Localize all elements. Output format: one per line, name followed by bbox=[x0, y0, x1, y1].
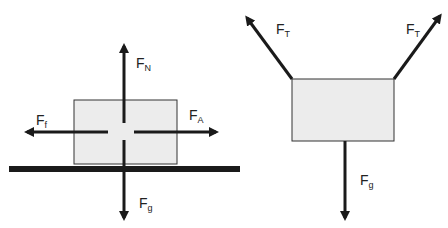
gravity-force-label: Fg bbox=[139, 196, 153, 213]
block-on-surface-diagram bbox=[9, 46, 240, 218]
normal-force-label: FN bbox=[136, 56, 151, 73]
hanging-block bbox=[292, 79, 394, 141]
tension-left-label: FT bbox=[276, 22, 290, 39]
free-body-diagrams bbox=[0, 0, 448, 228]
applied-force-label: FA bbox=[189, 108, 204, 125]
hanging-block-diagram bbox=[247, 16, 440, 218]
friction-force-label: Ff bbox=[36, 113, 47, 130]
gravity-force-label-right: Fg bbox=[360, 173, 374, 190]
tension-right-label: FT bbox=[406, 22, 420, 39]
